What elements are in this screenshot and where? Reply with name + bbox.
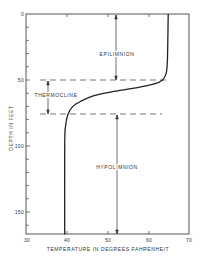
thermal-stratification-chart: 0 50 100 150 30 40 50 60 70 TEMPERATURE … — [0, 0, 201, 258]
y-axis-ticks — [26, 27, 30, 225]
y-tick-label: 0 — [21, 11, 24, 17]
x-tick-label: 50 — [105, 237, 111, 243]
temperature-profile-line — [65, 14, 169, 234]
y-tick-label: 50 — [18, 77, 24, 83]
x-tick-label: 40 — [64, 237, 70, 243]
y-axis-title: DEPTH IN FEET — [8, 105, 14, 150]
x-axis-ticks — [67, 14, 149, 234]
y-tick-label: 100 — [15, 143, 24, 149]
epilimnion-arrow — [115, 15, 117, 80]
x-tick-label: 70 — [186, 237, 192, 243]
x-axis-title: TEMPERATURE IN DEGREES FAHRENHEIT — [47, 246, 170, 252]
thermocline-label: THERMOCLINE — [35, 92, 78, 98]
x-tick-label: 60 — [146, 237, 152, 243]
plot-frame — [26, 14, 189, 234]
epilimnion-label: EPILIMNION — [100, 51, 135, 57]
y-tick-label: 150 — [15, 209, 24, 215]
hypolimnion-label: HYPOLIMNION — [96, 164, 138, 170]
x-tick-label: 30 — [24, 237, 30, 243]
hypolimnion-arrow — [116, 115, 118, 234]
